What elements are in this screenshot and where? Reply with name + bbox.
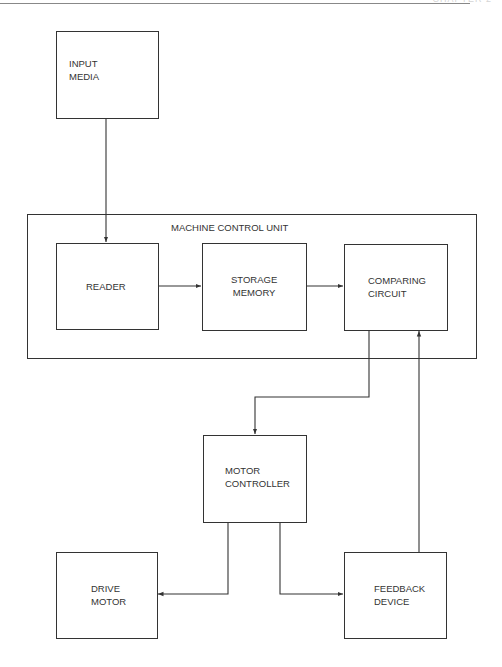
feedback-device-label: FEEDBACK DEVICE — [374, 582, 425, 608]
drive-motor-label: DRIVE MOTOR — [91, 582, 126, 608]
label-line-1: MOTOR — [225, 464, 290, 477]
storage-memory-block: STORAGE MEMORY — [202, 243, 307, 331]
label-line-2: MEMORY — [231, 286, 277, 299]
reader-label: READER — [86, 280, 126, 293]
label-line-2: MOTOR — [91, 595, 126, 608]
reader-block: READER — [56, 243, 159, 330]
storage-memory-label: STORAGE MEMORY — [231, 273, 277, 299]
label-line-2: CIRCUIT — [368, 287, 426, 300]
label-line-1: STORAGE — [231, 273, 277, 286]
label-line-1: READER — [86, 280, 126, 293]
label-line-2: DEVICE — [374, 595, 425, 608]
input-media-label: INPUT MEDIA — [69, 57, 99, 83]
label-line-1: INPUT — [69, 57, 99, 70]
label-line-1: DRIVE — [91, 582, 126, 595]
drive-motor-block: DRIVE MOTOR — [56, 552, 158, 639]
comparing-circuit-block: COMPARING CIRCUIT — [344, 244, 448, 331]
label-line-2: MEDIA — [69, 70, 99, 83]
label-line-1: COMPARING — [368, 274, 426, 287]
label-line-1: FEEDBACK — [374, 582, 425, 595]
motor-controller-label: MOTOR CONTROLLER — [225, 464, 290, 490]
label-line-2: CONTROLLER — [225, 477, 290, 490]
feedback-device-block: FEEDBACK DEVICE — [344, 552, 447, 639]
motor-controller-block: MOTOR CONTROLLER — [203, 435, 307, 523]
comparing-circuit-label: COMPARING CIRCUIT — [368, 274, 426, 300]
input-media-block: INPUT MEDIA — [56, 31, 159, 119]
machine-control-unit-label: MACHINE CONTROL UNIT — [171, 221, 288, 234]
